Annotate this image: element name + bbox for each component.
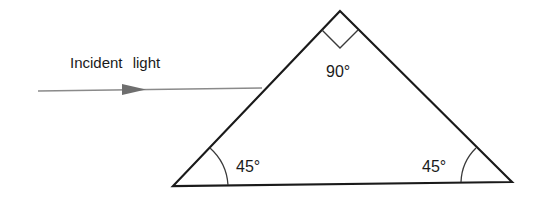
bottom-right-angle-label: 45°: [422, 158, 446, 175]
incident-ray-line: [38, 88, 262, 91]
apex-angle-label: 90°: [326, 63, 350, 80]
incident-light-label: Incident light: [70, 54, 161, 71]
bottom-left-angle-arc: [210, 148, 228, 185]
bottom-right-angle-arc: [461, 148, 476, 182]
right-angle-marker: [322, 30, 358, 48]
prism-triangle: [173, 11, 512, 186]
bottom-left-angle-label: 45°: [236, 158, 260, 175]
arrowhead-icon: [122, 84, 146, 95]
prism-diagram: Incident light 90° 45° 45°: [0, 0, 539, 197]
incident-ray: [38, 84, 262, 95]
